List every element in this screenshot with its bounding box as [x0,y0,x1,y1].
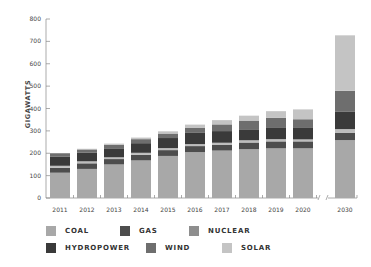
bar-2015 [158,131,178,198]
bar-segment-solar [158,131,178,133]
legend-item-nuclear: NUCLEAR [189,226,250,236]
bar-2030 [335,35,355,198]
x-tick-label: 2020 [290,206,316,213]
bar-segment-hydropower [185,133,205,144]
nuclear-swatch [189,226,199,236]
wind-swatch [146,243,156,253]
x-tick-label: 2012 [74,206,100,213]
bar-segment-solar [212,120,232,124]
axis-break-mark [326,195,328,200]
bar-segment-gas [50,168,70,173]
bar-segment-hydropower [158,138,178,148]
legend-label-solar: SOLAR [241,244,271,252]
bar-segment-solar [335,35,355,90]
bar-2014 [131,138,151,198]
legend-item-gas: GAS [120,226,175,236]
bar-segment-wind [185,128,205,133]
legend: COAL GAS NUCLEAR HYDROPOWER WIND SOLAR [46,222,306,256]
legend-row-1: COAL GAS NUCLEAR [46,222,306,239]
bar-segment-hydropower [77,153,97,162]
y-tick-label: 500 [21,82,41,89]
bar-segment-hydropower [131,143,151,153]
bar-segment-nuclear [131,153,151,155]
gas-swatch [120,226,130,236]
bar-2016 [185,125,205,198]
bar-segment-wind [335,91,355,112]
axis-break-mark [318,195,320,200]
bar-segment-gas [77,163,97,169]
legend-item-hydropower: HYDROPOWER [46,243,132,253]
bar-segment-coal [266,148,286,198]
bar-segment-wind [158,134,178,138]
bar-segment-solar [266,111,286,118]
bar-segment-coal [335,140,355,198]
legend-label-wind: WIND [165,244,190,252]
legend-item-coal: COAL [46,226,106,236]
bar-segment-gas [239,143,259,150]
bar-segment-coal [131,160,151,198]
bar-segment-hydropower [293,127,313,139]
bar-segment-hydropower [335,112,355,129]
coal-swatch [46,226,56,236]
bar-segment-solar [239,116,259,121]
bar-segment-wind [239,121,259,130]
bar-segment-nuclear [212,143,232,145]
bar-segment-nuclear [293,139,313,141]
bar-segment-gas [212,145,232,151]
y-tick-label: 400 [21,105,41,112]
bar-segment-gas [185,146,205,152]
bar-2018 [239,116,259,198]
x-tick-label: 2019 [263,206,289,213]
bar-segment-hydropower [266,127,286,139]
y-tick-label: 600 [21,60,41,67]
bar-segment-coal [158,156,178,198]
bar-segment-coal [185,152,205,198]
bar-segment-gas [293,141,313,148]
bar-segment-nuclear [185,144,205,146]
x-tick-label: 2018 [236,206,262,213]
legend-item-solar: SOLAR [222,243,271,253]
bar-segment-hydropower [50,157,70,166]
bar-segment-nuclear [77,161,97,163]
bar-segment-wind [77,149,97,152]
bar-segment-solar [77,149,97,150]
x-tick-label: 2014 [128,206,154,213]
bar-2019 [266,111,286,198]
x-tick-label: 2016 [182,206,208,213]
legend-row-2: HYDROPOWER WIND SOLAR [46,239,306,256]
legend-item-wind: WIND [146,243,208,253]
bar-segment-nuclear [158,148,178,150]
bar-segment-hydropower [212,131,232,143]
bar-2013 [104,144,124,198]
bar-2017 [212,120,232,198]
legend-label-coal: COAL [65,227,89,235]
bar-segment-nuclear [239,140,259,142]
x-tick-label: 2015 [155,206,181,213]
x-tick-label: 2013 [101,206,127,213]
bar-segment-coal [212,151,232,198]
bar-segment-solar [104,144,124,145]
bar-segment-gas [335,133,355,140]
bar-segment-coal [104,164,124,198]
bar-segment-gas [131,155,151,161]
bar-segment-hydropower [239,129,259,140]
bar-segment-solar [293,109,313,119]
bar-segment-coal [77,169,97,198]
y-tick-label: 700 [21,37,41,44]
bar-segment-coal [293,148,313,198]
bar-2020 [293,109,313,198]
bar-segment-nuclear [335,129,355,133]
bar-segment-gas [158,150,178,156]
legend-label-gas: GAS [139,227,158,235]
x-tick-label: 2011 [47,206,73,213]
bar-segment-nuclear [266,139,286,141]
bar-segment-wind [212,124,232,131]
y-tick-label: 200 [21,149,41,156]
bar-segment-solar [185,125,205,128]
bar-segment-wind [266,118,286,127]
bar-segment-solar [131,138,151,140]
legend-label-hydropower: HYDROPOWER [65,244,130,252]
y-tick-label: 100 [21,172,41,179]
bar-segment-wind [293,119,313,127]
hydropower-swatch [46,243,56,253]
